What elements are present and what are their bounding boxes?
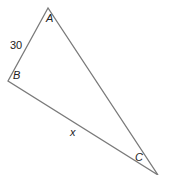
vertex-b-label: B bbox=[13, 69, 20, 81]
vertex-a-label: A bbox=[45, 12, 53, 24]
triangle-abc bbox=[8, 8, 158, 175]
side-ab-label: 30 bbox=[10, 39, 22, 51]
vertex-c-label: C bbox=[135, 151, 143, 163]
side-bc-label: x bbox=[69, 126, 76, 138]
triangle-diagram: A B C 30 x bbox=[0, 0, 174, 175]
